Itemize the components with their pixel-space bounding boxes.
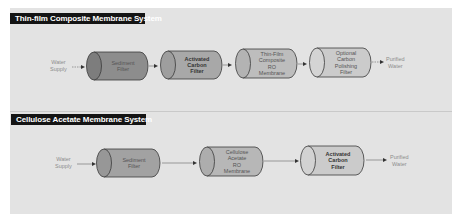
stage-label: Activated Carbon Filter — [176, 50, 218, 80]
stage-label: Sediment Filter — [112, 148, 156, 178]
purified-water-label: Purified Water — [390, 154, 409, 167]
stage-label: Thin-Film Composite RO Membrane — [251, 48, 293, 79]
water-supply-label: Water Supply — [55, 156, 72, 169]
sediment-filter-cylinder: Sediment Filter — [86, 51, 148, 81]
cellulose-acetate-system-title: Cellulose Acetate Membrane System — [11, 114, 146, 125]
water-supply-label: Water Supply — [50, 59, 67, 72]
activated-carbon-filter-cylinder: Activated Carbon Filter — [300, 145, 364, 176]
stage-label: Cellulose Acetate RO Membrane — [215, 146, 259, 177]
stage-label: Activated Carbon Filter — [316, 145, 360, 176]
thin-film-system-title: Thin-film Composite Membrane System — [10, 13, 145, 24]
optional-carbon-polishing-filter-cylinder: Optional Carbon Polishing Filter — [309, 47, 371, 78]
sediment-filter-cylinder: Sediment Filter — [96, 148, 160, 178]
section-divider — [10, 111, 452, 112]
activated-carbon-filter-cylinder: Activated Carbon Filter — [160, 50, 222, 80]
stage-label: Sediment Filter — [102, 51, 144, 81]
cellulose-acetate-ro-membrane-cylinder: Cellulose Acetate RO Membrane — [199, 146, 263, 177]
thin-film-ro-membrane-cylinder: Thin-Film Composite RO Membrane — [235, 48, 297, 79]
stage-label: Optional Carbon Polishing Filter — [325, 47, 367, 78]
purified-water-label: Purified Water — [386, 56, 405, 69]
